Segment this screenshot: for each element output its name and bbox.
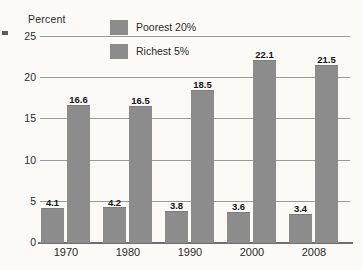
bar-value-richest-1970: 16.6 [66,94,91,105]
xtick-label-1990: 1990 [160,246,220,258]
xtick-label-1980: 1980 [98,246,158,258]
bar-value-poorest-2008: 3.4 [288,203,313,214]
bar-poorest-1990 [165,211,188,243]
gridline-20 [46,77,350,78]
bar-richest-2000 [253,60,276,243]
bar-value-richest-2008: 21.5 [314,54,339,65]
gridline-25 [46,36,350,37]
bar-poorest-2008 [289,214,312,243]
bar-richest-1990 [191,90,214,243]
legend-swatch-richest [110,44,128,59]
ytick-label-25: 25 [14,30,36,42]
ytick-label-20: 20 [14,71,36,83]
bar-richest-1980 [129,106,152,243]
bar-richest-2008 [315,65,338,243]
bar-poorest-2000 [227,212,250,243]
plot-area: 25 20 15 10 5 0 4.1 16.6 1970 4.2 16.5 1… [0,0,362,270]
bar-chart-figure: Percent 25 20 15 10 5 0 4.1 16.6 1970 [0,0,362,270]
legend-swatch-poorest [110,20,128,35]
legend-label-poorest: Poorest 20% [136,21,196,33]
ytick-label-5: 5 [14,195,36,207]
ytick-label-10: 10 [14,154,36,166]
bar-value-richest-2000: 22.1 [252,49,277,60]
bar-value-poorest-1970: 4.1 [40,197,65,208]
ytick-label-15: 15 [14,112,36,124]
legend-label-richest: Richest 5% [136,45,189,57]
bar-poorest-1980 [103,207,126,243]
ytick-dash-10 [40,160,46,161]
bar-value-poorest-1980: 4.2 [102,197,127,208]
xtick-label-2000: 2000 [222,246,282,258]
bar-value-poorest-2000: 3.6 [226,201,251,212]
bar-value-poorest-1990: 3.8 [164,200,189,211]
xtick-label-1970: 1970 [36,246,96,258]
xtick-label-2008: 2008 [284,246,344,258]
bar-value-richest-1990: 18.5 [190,79,215,90]
bar-poorest-1970 [41,208,64,243]
ytick-dash-15 [40,118,46,119]
ytick-dash-20 [40,77,46,78]
ytick-dash-25 [40,36,46,37]
ytick-label-0: 0 [14,236,36,248]
bar-value-richest-1980: 16.5 [128,95,153,106]
bar-richest-1970 [67,105,90,243]
